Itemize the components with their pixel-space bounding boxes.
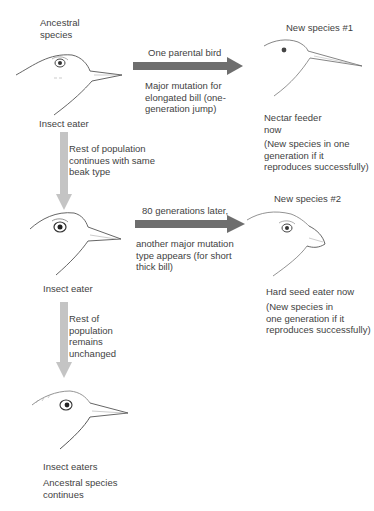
right-arrow-icon [133, 57, 243, 75]
new-species-1-note: (New species in one generation if it rep… [264, 138, 369, 173]
new-species-2-note: (New species in one generation if it rep… [266, 301, 371, 336]
seed-eater-bird-illustration [245, 208, 335, 278]
new-species-2-title: New species #2 [274, 193, 341, 205]
right-arrow-icon [135, 215, 245, 233]
generation3-caption: Insect eaters [43, 461, 97, 473]
ancestral-species-title: Ancestral species [40, 17, 80, 40]
down-arrow1-label: Rest of population continues with same b… [69, 143, 155, 178]
insect-eater-bird-illustration [26, 207, 126, 277]
arrow1-label-bottom: Major mutation for elongated bill (one- … [145, 80, 226, 115]
new-species-1-title: New species #1 [286, 22, 353, 34]
generation2-caption: Insect eater [43, 283, 93, 295]
generation3-note: Ancestral species continues [43, 477, 117, 500]
ancestral-bird-illustration [14, 45, 124, 120]
insect-eater-bird-illustration [26, 385, 131, 455]
ancestral-caption: Insect eater [39, 118, 89, 130]
down-arrow2-label: Rest of population remains unchanged [69, 313, 116, 359]
new-species-2-caption: Hard seed eater now [266, 286, 354, 298]
nectar-feeder-bird-illustration [262, 38, 367, 98]
arrow2-label-bottom: another major mutation type appears (for… [136, 238, 234, 273]
new-species-1-caption: Nectar feeder now [264, 112, 322, 135]
